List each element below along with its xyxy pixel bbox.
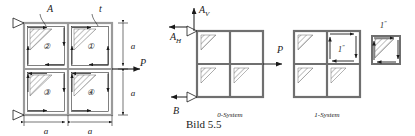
zero-system-panel: AV AH B P 0-System bbox=[165, 0, 290, 136]
support-B bbox=[187, 92, 197, 102]
support-A bbox=[187, 26, 197, 36]
dim-label-right-top: a bbox=[131, 41, 136, 51]
figure-bild-5-5: ② ① ③ ④ A t P a a bbox=[0, 0, 415, 136]
detached-unit-cell bbox=[372, 36, 400, 64]
label-reaction-AH: AH bbox=[169, 31, 182, 45]
label-zero-system-load-P: P bbox=[276, 44, 283, 55]
one-system-title: 1-System bbox=[314, 111, 339, 119]
label-thickness-t: t bbox=[99, 3, 102, 14]
cell-label-2: ② bbox=[43, 42, 51, 51]
dimension-horizontal bbox=[24, 115, 112, 126]
shear-hatch-marks bbox=[30, 29, 96, 96]
figure-caption: Bild 5.5 bbox=[186, 118, 221, 130]
cell-label-4: ④ bbox=[87, 88, 95, 97]
label-reaction-AV: AV bbox=[198, 4, 210, 18]
dim-label-bottom-left: a bbox=[44, 126, 49, 136]
dim-label-bottom-right: a bbox=[88, 126, 93, 136]
shear-field-panel: ② ① ③ ④ A t P a a bbox=[0, 0, 150, 136]
label-unit-force-outer: 1″ bbox=[380, 20, 387, 30]
dim-label-right-bottom: a bbox=[131, 88, 136, 98]
label-reaction-B: B bbox=[173, 105, 179, 116]
label-load-P: P bbox=[139, 57, 146, 68]
one-system-hatch-marks bbox=[298, 35, 346, 83]
cell-label-3: ③ bbox=[43, 88, 51, 97]
label-unit-force-inner: 1″ bbox=[338, 44, 345, 54]
label-area-A: A bbox=[46, 3, 54, 14]
dimension-vertical bbox=[118, 23, 128, 115]
support-top bbox=[13, 18, 24, 28]
zero-system-hatch-marks bbox=[201, 35, 249, 83]
one-system-panel: 1″ 1″ 1-System bbox=[290, 0, 415, 136]
support-bottom bbox=[13, 110, 24, 120]
cell-label-1: ① bbox=[87, 42, 95, 51]
